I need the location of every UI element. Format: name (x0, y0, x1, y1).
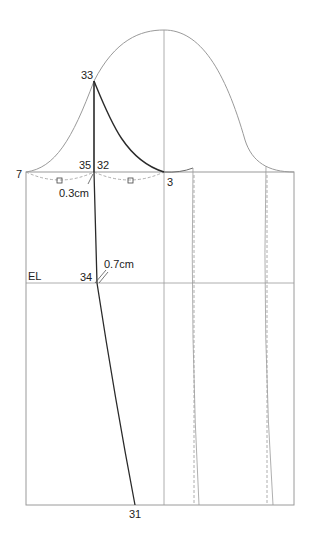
seam-32-31 (94, 172, 135, 505)
pattern-outline (26, 172, 294, 505)
side-line-1 (192, 168, 199, 505)
label-0.3cm: 0.3cm (59, 187, 89, 199)
pointer-03 (88, 174, 93, 184)
sleeve-pattern-diagram: 7 35 32 33 3 0.3cm EL 34 0.7cm 31 (0, 0, 314, 546)
dashed-curve-left (26, 172, 94, 180)
label-35: 35 (79, 159, 91, 171)
label-el: EL (28, 270, 41, 282)
label-7: 7 (16, 168, 22, 180)
side-line-2 (265, 166, 273, 505)
square-marker-1 (57, 178, 62, 183)
dashed-curve-right (94, 172, 164, 180)
label-3: 3 (167, 176, 173, 188)
label-31: 31 (129, 508, 141, 520)
pointer-07b (99, 272, 108, 283)
sleeve-cap-curve (26, 30, 294, 172)
label-34: 34 (80, 271, 92, 283)
label-33: 33 (81, 69, 93, 81)
label-0.7cm: 0.7cm (104, 258, 134, 270)
label-32: 32 (97, 159, 109, 171)
square-marker-2 (128, 178, 133, 183)
